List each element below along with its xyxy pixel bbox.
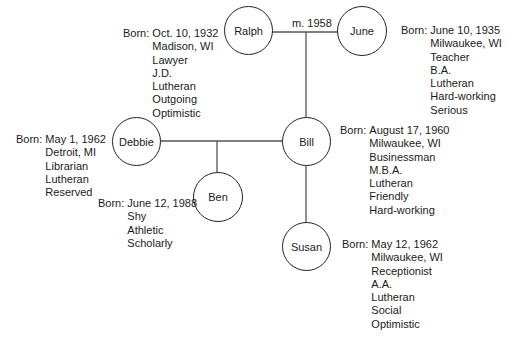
detail-trait: Serious — [430, 104, 502, 117]
detail-trait: Hard-working — [430, 90, 502, 103]
person-node-susan: Susan — [282, 222, 331, 271]
detail-birthplace: Milwaukee, WI — [371, 251, 443, 264]
detail-occupation: Librarian — [45, 160, 106, 173]
detail-birthdate: May 12, 1962 — [371, 238, 443, 251]
born-label: Born: — [16, 133, 42, 199]
detail-trait: Optimistic — [152, 107, 218, 120]
born-label: Born: — [342, 238, 368, 331]
person-name: Debbie — [119, 136, 154, 148]
detail-birthdate: August 17, 1960 — [369, 124, 449, 137]
detail-religion: Lutheran — [371, 291, 443, 304]
person-info-bill: Born: August 17, 1960 Milwaukee, WI Busi… — [340, 124, 449, 217]
person-info-june: Born: June 10, 1935 Milwaukee, WI Teache… — [401, 24, 502, 117]
detail-occupation: Lawyer — [152, 54, 218, 67]
person-info-debbie: Born: May 1, 1962 Detroit, MI Librarian … — [16, 133, 106, 199]
detail-birthdate: June 12, 1988 — [127, 197, 197, 210]
person-info-ben: Born: June 12, 1988 Shy Athletic Scholar… — [98, 197, 197, 250]
person-node-bill: Bill — [282, 117, 331, 166]
detail-religion: Lutheran — [430, 77, 502, 90]
detail-birthplace: Milwaukee, WI — [369, 137, 449, 150]
detail-trait: Friendly — [369, 190, 449, 203]
detail-education: M.B.A. — [369, 164, 449, 177]
person-node-ben: Ben — [193, 172, 243, 222]
detail-religion: Lutheran — [369, 177, 449, 190]
person-node-debbie: Debbie — [112, 117, 161, 166]
detail-birthdate: June 10, 1935 — [430, 24, 502, 37]
detail-trait: Shy — [127, 210, 197, 223]
person-name: Bill — [299, 136, 314, 148]
person-name: Ralph — [234, 25, 263, 37]
detail-occupation: Receptionist — [371, 265, 443, 278]
born-label: Born: — [98, 197, 124, 250]
detail-trait: Hard-working — [369, 204, 449, 217]
detail-birthplace: Milwaukee, WI — [430, 37, 502, 50]
detail-birthdate: May 1, 1962 — [45, 133, 106, 146]
detail-trait: Social — [371, 304, 443, 317]
detail-trait: Reserved — [45, 186, 106, 199]
detail-occupation: Businessman — [369, 151, 449, 164]
detail-education: A.A. — [371, 278, 443, 291]
detail-trait: Scholarly — [127, 237, 197, 250]
detail-religion: Lutheran — [45, 173, 106, 186]
person-name: Ben — [208, 191, 228, 203]
person-name: Susan — [291, 241, 322, 253]
detail-occupation: Teacher — [430, 51, 502, 64]
person-name: June — [350, 25, 374, 37]
person-info-susan: Born: May 12, 1962 Milwaukee, WI Recepti… — [342, 238, 443, 331]
detail-trait: Optimistic — [371, 318, 443, 331]
detail-birthplace: Madison, WI — [152, 40, 218, 53]
born-label: Born: — [123, 27, 149, 120]
detail-trait: Athletic — [127, 224, 197, 237]
detail-birthplace: Detroit, MI — [45, 146, 106, 159]
marriage-label: m. 1958 — [292, 17, 332, 29]
detail-religion: Lutheran — [152, 80, 218, 93]
person-info-ralph: Born: Oct. 10, 1932 Madison, WI Lawyer J… — [123, 27, 218, 120]
detail-trait: Outgoing — [152, 93, 218, 106]
detail-education: J.D. — [152, 67, 218, 80]
detail-birthdate: Oct. 10, 1932 — [152, 27, 218, 40]
person-node-june: June — [337, 6, 387, 56]
born-label: Born: — [340, 124, 366, 217]
born-label: Born: — [401, 24, 427, 117]
detail-education: B.A. — [430, 64, 502, 77]
person-node-ralph: Ralph — [224, 6, 273, 55]
